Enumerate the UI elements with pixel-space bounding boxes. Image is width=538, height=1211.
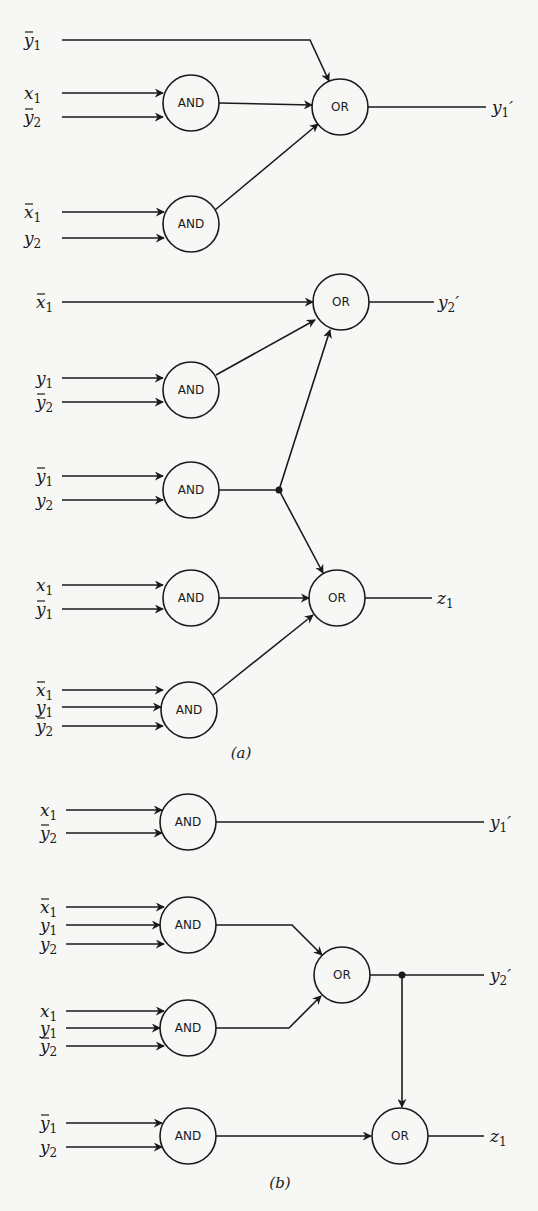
and-gate: AND	[163, 362, 219, 418]
gate-label: AND	[175, 918, 201, 932]
input-label-y1: y1	[35, 599, 53, 622]
and-gate: AND	[160, 897, 216, 953]
output-label-z1: z1	[436, 588, 454, 611]
input-label-y1: y1	[23, 30, 41, 53]
output-label-y2: y2′	[489, 965, 511, 988]
wire	[216, 925, 322, 955]
wire	[213, 615, 313, 695]
input-label-y2: y2	[23, 107, 41, 130]
logic-diagram: ANDANDORANDANDORANDANDORANDANDORANDANDOR…	[0, 0, 538, 1211]
input-label-y1: y1	[35, 466, 53, 489]
wire	[219, 103, 312, 105]
and-gate: AND	[160, 1000, 216, 1056]
and-gate: AND	[160, 794, 216, 850]
gate-label: AND	[178, 96, 204, 110]
and-gate: AND	[163, 196, 219, 252]
wire	[215, 124, 318, 210]
input-label-y1: y1	[35, 368, 53, 391]
input-label-y2: y2	[35, 490, 53, 513]
or-gate: OR	[372, 1108, 428, 1164]
and-gate: AND	[160, 1108, 216, 1164]
gate-label: AND	[178, 383, 204, 397]
input-label-x1: x1	[36, 575, 53, 598]
wire	[216, 996, 321, 1028]
part-caption: (a)	[231, 744, 252, 762]
input-label-y1: y1	[39, 1113, 57, 1136]
part-caption: (b)	[269, 1174, 290, 1192]
output-label-y1: y1′	[489, 812, 511, 835]
circuit-svg: ANDANDORANDANDORANDANDORANDANDORANDANDOR…	[0, 0, 538, 1211]
output-label-y2: y2′	[437, 292, 459, 315]
input-label-x1: x1	[40, 800, 57, 823]
or-gate: OR	[309, 570, 365, 626]
wire	[216, 320, 315, 375]
output-label-z1: z1	[489, 1126, 507, 1149]
gate-label: OR	[333, 968, 351, 982]
input-label-x1: x1	[24, 83, 41, 106]
and-gate: AND	[163, 570, 219, 626]
wire	[279, 330, 330, 490]
part-a-wires	[62, 40, 486, 726]
input-label-x1: x1	[24, 202, 41, 225]
gate-label: AND	[176, 703, 202, 717]
junction-dot	[276, 487, 283, 494]
gate-label: AND	[178, 217, 204, 231]
gate-label: OR	[332, 295, 350, 309]
input-label-y2: y2	[23, 228, 41, 251]
gate-label: OR	[331, 100, 349, 114]
gates: ANDANDORANDANDORANDANDORANDANDORANDANDOR	[160, 75, 428, 1164]
labels: y1x1y2x1y2x1y1y2y1y2x1y1x1y1y2y1′y2′z1(a…	[23, 30, 513, 1192]
gate-label: OR	[391, 1129, 409, 1143]
or-gate: OR	[312, 79, 368, 135]
input-label-x1: x1	[36, 292, 53, 315]
gate-label: AND	[175, 1129, 201, 1143]
gate-label: AND	[178, 591, 204, 605]
gate-label: AND	[178, 483, 204, 497]
input-label-y2: y2	[39, 823, 57, 846]
wire	[279, 490, 323, 573]
output-label-y1: y1′	[491, 97, 513, 120]
gate-label: OR	[328, 591, 346, 605]
and-gate: AND	[161, 682, 217, 738]
gate-label: AND	[175, 815, 201, 829]
part-b-wires	[66, 810, 484, 1147]
and-gate: AND	[163, 462, 219, 518]
or-gate: OR	[314, 947, 370, 1003]
or-gate: OR	[313, 274, 369, 330]
input-label-y2: y2	[35, 392, 53, 415]
gate-label: AND	[175, 1021, 201, 1035]
input-label-y2: y2	[39, 1137, 57, 1160]
junction-dot	[399, 972, 406, 979]
and-gate: AND	[163, 75, 219, 131]
